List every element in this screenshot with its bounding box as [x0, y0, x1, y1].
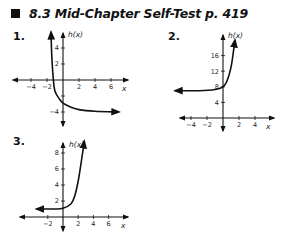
- graphs-canvas: −4−2246−424h(x)x −4−224481216h(x)x −2246…: [0, 0, 287, 243]
- graph-1: −4−2246−424h(x)x: [13, 30, 128, 126]
- function-curve: [175, 40, 235, 91]
- x-tick-label: −4: [186, 121, 196, 129]
- y-tick-label: 4: [55, 44, 59, 52]
- x-tick-label: 2: [76, 220, 80, 228]
- y-tick-label: 16: [211, 52, 219, 60]
- y-tick-label: 6: [55, 165, 59, 173]
- x-axis-label: x: [121, 84, 127, 93]
- x-tick-label: −2: [202, 121, 212, 129]
- y-axis-label: h(x): [69, 140, 84, 149]
- x-tick-label: 4: [93, 83, 97, 91]
- function-curve: [51, 32, 119, 112]
- x-tick-label: 4: [91, 220, 95, 228]
- x-tick-label: 6: [109, 83, 113, 91]
- graph-3: −22462468h(x)x: [20, 140, 128, 231]
- y-tick-label: 2: [55, 197, 59, 205]
- x-axis-label: x: [265, 122, 271, 131]
- x-tick-label: 4: [253, 121, 257, 129]
- x-tick-label: 2: [237, 121, 241, 129]
- y-tick-label: 12: [211, 68, 219, 76]
- x-tick-label: 6: [107, 220, 111, 228]
- x-tick-label: 2: [77, 83, 81, 91]
- x-tick-label: −4: [26, 83, 36, 91]
- y-axis-label: h(x): [228, 31, 243, 40]
- x-axis-label: x: [120, 221, 126, 230]
- y-tick-label: 4: [55, 181, 59, 189]
- y-tick-label: −4: [49, 108, 59, 116]
- y-tick-label: 8: [55, 149, 59, 157]
- function-curve: [36, 141, 84, 209]
- x-tick-label: −2: [43, 220, 53, 228]
- y-tick-label: 2: [55, 60, 59, 68]
- graph-2: −4−224481216h(x)x: [175, 31, 274, 131]
- y-axis-label: h(x): [68, 30, 83, 39]
- x-tick-label: −2: [42, 83, 52, 91]
- y-tick-label: 4: [215, 99, 219, 107]
